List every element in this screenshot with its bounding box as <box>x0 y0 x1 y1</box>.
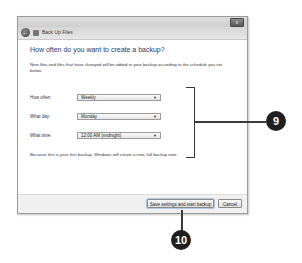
back-button[interactable]: ← <box>21 28 30 37</box>
content-area: How often do you want to create a backup… <box>18 40 247 195</box>
close-icon: x <box>236 19 239 25</box>
dropdown-value: 12:00 AM (midnight) <box>81 133 121 138</box>
page-heading: How often do you want to create a backup… <box>30 46 165 53</box>
dropdown-value: Weekly <box>81 95 96 100</box>
backup-app-icon <box>33 30 39 36</box>
nav-bar: ← Back Up Files <box>18 27 247 40</box>
schedule-bracket <box>186 87 195 158</box>
footer-bar: Save settings and start backup Cancel <box>18 194 247 213</box>
what-time-label: What time: <box>30 133 52 138</box>
callout-10-leader-line <box>181 210 183 231</box>
title-bar: x <box>18 17 247 27</box>
close-button[interactable]: x <box>230 18 244 27</box>
cancel-button[interactable]: Cancel <box>218 199 242 208</box>
first-backup-note: Because this is your first backup, Windo… <box>30 152 177 157</box>
save-and-start-backup-button[interactable]: Save settings and start backup <box>147 199 214 208</box>
how-often-label: How often: <box>30 95 52 100</box>
callout-10-badge: 10 <box>171 230 191 250</box>
what-day-label: What day: <box>30 114 50 119</box>
window-title: Back Up Files <box>42 29 73 35</box>
dropdown-arrow-icon: ▼ <box>153 114 157 119</box>
callout-9-badge: 9 <box>266 111 286 131</box>
what-time-dropdown[interactable]: 12:00 AM (midnight) ▼ <box>77 132 161 139</box>
back-up-files-window: x ← Back Up Files How often do you want … <box>17 16 248 214</box>
callout-9-leader-line <box>194 121 266 123</box>
what-day-dropdown[interactable]: Monday ▼ <box>77 113 161 120</box>
back-arrow-icon: ← <box>22 29 29 36</box>
dropdown-arrow-icon: ▼ <box>153 95 157 100</box>
how-often-dropdown[interactable]: Weekly ▼ <box>77 94 161 101</box>
description-text: New files and files that have changed wi… <box>30 62 235 74</box>
dropdown-arrow-icon: ▼ <box>153 133 157 138</box>
dropdown-value: Monday <box>81 114 97 119</box>
